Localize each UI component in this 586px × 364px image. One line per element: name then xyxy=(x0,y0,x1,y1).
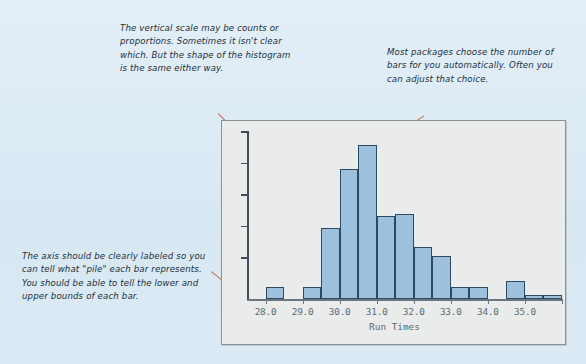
x-axis-tick xyxy=(377,299,378,304)
histogram-bar xyxy=(525,295,544,299)
x-axis-tick-label: 34.0 xyxy=(477,306,499,317)
x-axis-tick xyxy=(414,299,415,304)
x-axis-title: Run Times xyxy=(222,321,567,332)
histogram-bar xyxy=(469,287,488,299)
histogram-bar xyxy=(303,287,322,299)
y-axis-tick xyxy=(241,226,248,228)
annotation-axis-labeling: The axis should be clearly labeled so yo… xyxy=(22,250,212,304)
y-axis-tick xyxy=(241,194,248,196)
x-axis-tick-label: 30.0 xyxy=(329,306,351,317)
histogram-bar xyxy=(377,216,396,299)
x-axis-tick-label: 33.0 xyxy=(440,306,462,317)
histogram-bar xyxy=(266,287,285,299)
histogram-bar xyxy=(321,228,340,299)
histogram-bar xyxy=(414,247,433,299)
plot-area: 28.029.030.031.032.033.034.035.0 Run Tim… xyxy=(222,121,567,346)
x-axis-tick-label: 28.0 xyxy=(255,306,277,317)
histogram-bar xyxy=(358,145,377,299)
histogram-bar xyxy=(432,256,451,299)
histogram-bar xyxy=(340,169,359,299)
x-axis-tick xyxy=(525,299,526,304)
x-axis-tick xyxy=(266,299,267,304)
histogram-bar xyxy=(395,214,414,299)
x-axis-tick xyxy=(303,299,304,304)
y-axis-tick xyxy=(241,163,248,165)
x-axis-tick-label: 29.0 xyxy=(292,306,314,317)
x-axis-tick xyxy=(451,299,452,304)
histogram-bar xyxy=(543,295,562,299)
x-axis-tick xyxy=(488,299,489,304)
y-axis-tick xyxy=(241,131,248,133)
x-axis-line xyxy=(247,299,562,301)
annotation-number-of-bars: Most packages choose the number of bars … xyxy=(387,46,567,86)
x-axis-tick-label: 31.0 xyxy=(366,306,388,317)
histogram-panel: 28.029.030.031.032.033.034.035.0 Run Tim… xyxy=(221,120,566,345)
annotation-vertical-scale: The vertical scale may be counts or prop… xyxy=(120,22,295,76)
histogram-bar xyxy=(506,281,525,299)
x-axis-tick xyxy=(340,299,341,304)
y-axis-tick xyxy=(241,257,248,259)
x-axis-tick-label: 32.0 xyxy=(403,306,425,317)
x-axis-tick-label: 35.0 xyxy=(514,306,536,317)
histogram-bar xyxy=(451,287,470,299)
y-axis xyxy=(247,131,249,299)
x-axis-tick xyxy=(562,299,563,304)
